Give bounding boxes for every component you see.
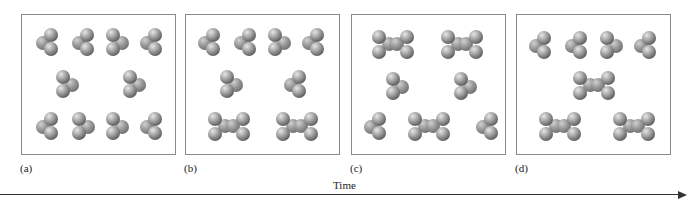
atom: [641, 112, 655, 126]
atom: [372, 45, 386, 59]
atom: [44, 28, 58, 42]
atom: [236, 127, 250, 141]
panel-label-b: (b): [184, 162, 197, 174]
atom: [573, 45, 587, 59]
atom: [292, 84, 306, 98]
atom: [642, 45, 656, 59]
atom: [600, 45, 614, 59]
atom: [613, 112, 627, 126]
atom: [106, 112, 120, 126]
atom: [106, 126, 120, 140]
atom: [44, 112, 58, 126]
atom: [372, 112, 386, 126]
atom: [469, 45, 483, 59]
atom: [148, 126, 162, 140]
atom: [567, 112, 581, 126]
atom: [573, 86, 587, 100]
atom: [408, 127, 422, 141]
atom: [408, 112, 422, 126]
atom: [601, 86, 615, 100]
panel-a: [21, 14, 176, 155]
atom: [44, 42, 58, 56]
atom: [454, 72, 468, 86]
atom: [304, 127, 318, 141]
atom: [148, 112, 162, 126]
time-axis-line: [0, 194, 680, 195]
atom: [242, 42, 256, 56]
atom: [304, 112, 318, 126]
atom: [484, 126, 498, 140]
arrow-right-icon: [678, 191, 687, 199]
atom: [613, 127, 627, 141]
atom: [80, 28, 94, 42]
atom: [484, 112, 498, 126]
atom: [567, 127, 581, 141]
panel-label-a: (a): [20, 162, 32, 174]
atom: [206, 42, 220, 56]
time-axis-label: Time: [333, 179, 356, 191]
atom: [106, 28, 120, 42]
atom: [276, 112, 290, 126]
atom: [72, 112, 86, 126]
atom: [601, 71, 615, 85]
atom: [106, 42, 120, 56]
panel-c: [351, 14, 506, 155]
atom: [642, 31, 656, 45]
atom: [400, 30, 414, 44]
atom: [206, 28, 220, 42]
atom: [268, 42, 282, 56]
atom: [310, 28, 324, 42]
atom: [123, 70, 137, 84]
atom: [242, 28, 256, 42]
panel-d: [516, 14, 671, 155]
atom: [44, 126, 58, 140]
atom: [386, 72, 400, 86]
atom: [208, 127, 222, 141]
atom: [539, 127, 553, 141]
atom: [220, 84, 234, 98]
atom: [537, 45, 551, 59]
atom: [56, 70, 70, 84]
atom: [400, 45, 414, 59]
atom: [372, 30, 386, 44]
atom: [268, 28, 282, 42]
atom: [310, 42, 324, 56]
atom: [276, 127, 290, 141]
atom: [441, 30, 455, 44]
atom: [123, 84, 137, 98]
atom: [641, 127, 655, 141]
atom: [292, 70, 306, 84]
atom: [372, 126, 386, 140]
atom: [469, 30, 483, 44]
atom: [72, 126, 86, 140]
atom: [600, 31, 614, 45]
atom: [539, 112, 553, 126]
panel-b: [185, 14, 340, 155]
panel-label-c: (c): [350, 162, 362, 174]
atom: [386, 86, 400, 100]
atom: [537, 31, 551, 45]
atom: [441, 45, 455, 59]
atom: [436, 127, 450, 141]
atom: [220, 70, 234, 84]
atom: [573, 71, 587, 85]
atom: [454, 86, 468, 100]
panel-label-d: (d): [515, 162, 528, 174]
atom: [148, 28, 162, 42]
atom: [208, 112, 222, 126]
atom: [436, 112, 450, 126]
atom: [573, 31, 587, 45]
atom: [56, 84, 70, 98]
atom: [80, 42, 94, 56]
atom: [148, 42, 162, 56]
atom: [236, 112, 250, 126]
